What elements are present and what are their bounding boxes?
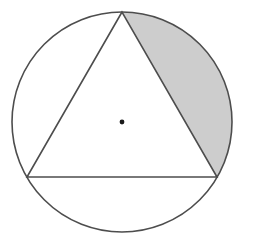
shaded-circular-segment bbox=[122, 12, 232, 177]
center-point-dot bbox=[120, 120, 125, 125]
geometry-figure bbox=[0, 0, 253, 241]
geometry-canvas bbox=[0, 0, 253, 241]
